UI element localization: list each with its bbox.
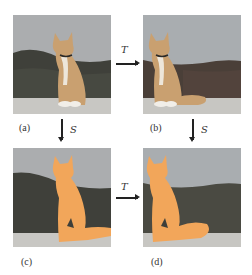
segment-symbol-right: S (201, 124, 208, 135)
segment-symbol-left: S (70, 124, 77, 135)
panel-c-image (13, 148, 111, 247)
kitten-photo-a (13, 15, 111, 114)
panel-label-c: (c) (21, 256, 32, 267)
panel-b-image (143, 15, 241, 114)
segment-arrow-right (192, 119, 194, 140)
panel-label-d: (d) (151, 256, 163, 267)
panel-d-image (143, 148, 241, 247)
panel-label-a: (a) (19, 122, 30, 133)
panel-label-b: (b) (150, 122, 162, 133)
kitten-mask-d (143, 148, 241, 247)
transform-symbol-bottom: T (121, 181, 128, 192)
segment-arrow-left (61, 119, 63, 140)
transform-symbol-top: T (121, 44, 128, 55)
transform-arrow-top (116, 63, 138, 65)
panel-a-image (13, 15, 111, 114)
transform-arrow-bottom (116, 197, 138, 199)
kitten-photo-b (143, 15, 241, 114)
kitten-mask-c (13, 148, 111, 247)
